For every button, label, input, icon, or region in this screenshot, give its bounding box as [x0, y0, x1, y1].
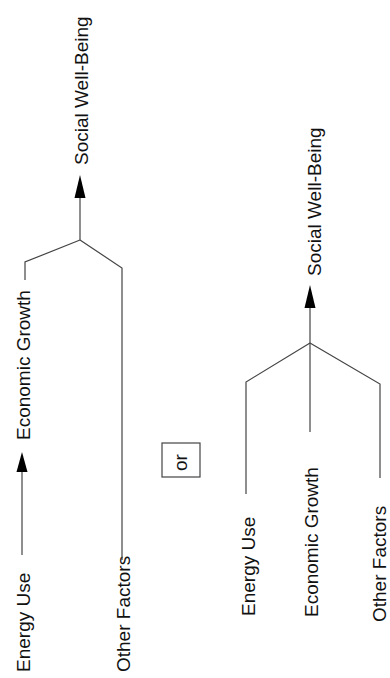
left-economic-growth-label: Economic Growth — [13, 290, 34, 440]
right-energy-use-label: Energy Use — [238, 517, 259, 616]
left-social-arrowhead-icon — [75, 175, 86, 198]
right-social-well-being-label: Social Well-Being — [304, 127, 325, 276]
left-other-branch-line — [80, 240, 122, 560]
right-economic-growth-label: Economic Growth — [301, 467, 322, 617]
right-other-factors-label: Other Factors — [369, 506, 390, 622]
right-social-arrowhead-icon — [305, 285, 316, 308]
left-energy-use-label: Energy Use — [13, 573, 34, 672]
left-growth-branch-line — [25, 240, 80, 280]
left-other-factors-label: Other Factors — [113, 556, 134, 672]
right-model: Energy Use Economic Growth Other Factors… — [238, 127, 390, 622]
or-label: or — [170, 453, 191, 471]
left-energy-to-growth-arrowhead-icon — [17, 452, 28, 472]
left-model: Energy Use Economic Growth Other Factors… — [13, 16, 134, 672]
or-separator: or — [162, 443, 200, 477]
right-other-branch-line — [310, 343, 380, 478]
left-social-well-being-label: Social Well-Being — [71, 16, 92, 165]
causal-diagram: Energy Use Economic Growth Other Factors… — [0, 0, 390, 678]
